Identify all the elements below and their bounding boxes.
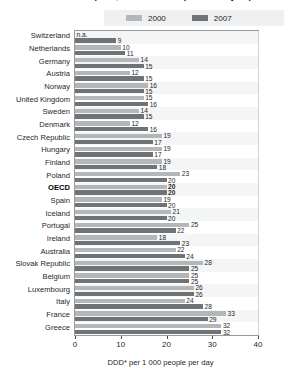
bar-fill: [75, 228, 176, 232]
bar-fill: [75, 190, 167, 194]
category-label-czech-republic: Czech Republic: [17, 133, 70, 142]
bar-2007-iceland: 20: [75, 216, 258, 220]
bar-2007-luxembourg: 26: [75, 292, 258, 296]
value-axis: 010203040: [74, 336, 259, 354]
axis-tick: [167, 336, 168, 339]
bar-2007-australia: 24: [75, 254, 258, 258]
bar-2000-sweden: 14: [75, 109, 258, 113]
bar-2000-switzerland: n.a.: [75, 33, 258, 37]
bar-fill: [75, 114, 144, 118]
bar-2007-norway: 15: [75, 89, 258, 93]
bar-fill: [75, 324, 221, 328]
bar-value-2000: 23: [182, 170, 189, 177]
bar-2007-czech-republic: 17: [75, 140, 258, 144]
bar-value-2000: 12: [131, 69, 138, 76]
bar-fill: [75, 76, 144, 80]
axis-tick: [212, 336, 213, 339]
chart-title: Antibacterials consumption, 2000 and 200…: [0, 0, 285, 3]
bar-fill: [75, 178, 167, 182]
category-label-ireland: Ireland: [47, 234, 70, 243]
bar-value-2000: 12: [131, 120, 138, 127]
category-label-belgium: Belgium: [43, 272, 70, 281]
plot-area: n.a.910111415121516151516141512161917191…: [74, 30, 259, 336]
bar-fill: [75, 210, 171, 214]
bar-fill: [75, 96, 144, 100]
bar-fill: [75, 45, 121, 49]
bar-fill: [75, 152, 153, 156]
bar-fill: [75, 147, 162, 151]
bar-2000-united-kingdom: 15: [75, 96, 258, 100]
bar-2000-italy: 24: [75, 299, 258, 303]
bar-fill: [75, 134, 162, 138]
legend-item-2007: 2007: [192, 14, 232, 23]
axis-tick-label-20: 20: [162, 340, 171, 349]
bar-2007-belgium: 25: [75, 279, 258, 283]
bar-fill: [75, 286, 194, 290]
category-label-luxembourg: Luxembourg: [28, 285, 70, 294]
category-label-switzerland: Switzerland: [31, 31, 70, 40]
bar-fill: [75, 172, 180, 176]
bar-fill: [75, 216, 167, 220]
bar-fill: [75, 223, 189, 227]
category-label-italy: Italy: [56, 297, 70, 306]
bar-fill: [75, 241, 180, 245]
bar-2000-portugal: 25: [75, 223, 258, 227]
bar-2000-norway: 16: [75, 83, 258, 87]
bar-2000-hungary: 19: [75, 147, 258, 151]
axis-tick: [258, 336, 259, 339]
bar-2007-greece: 32: [75, 330, 258, 334]
category-label-iceland: Iceland: [46, 209, 71, 218]
bar-value-2000: 22: [177, 246, 184, 253]
bar-value-2000: 33: [227, 310, 234, 317]
axis-tick-label-0: 0: [73, 340, 77, 349]
category-label-portugal: Portugal: [42, 221, 70, 230]
axis-tick-label-10: 10: [116, 340, 125, 349]
bar-fill: [75, 58, 139, 62]
bar-fill: [75, 197, 162, 201]
bar-fill: [75, 299, 185, 303]
bar-fill: [75, 266, 189, 270]
bar-2007-sweden: 15: [75, 114, 258, 118]
bar-fill: [75, 185, 167, 189]
bar-fill: [75, 109, 139, 113]
category-label-hungary: Hungary: [41, 145, 70, 154]
bar-2000-oecd: 20: [75, 185, 258, 189]
category-label-united-kingdom: United Kingdom: [16, 95, 70, 104]
bar-fill: [75, 38, 116, 42]
bar-2000-france: 33: [75, 311, 258, 315]
legend-swatch-2000: [126, 15, 142, 21]
bar-2000-austria: 12: [75, 71, 258, 75]
axis-tick-label-30: 30: [208, 340, 217, 349]
bar-2007-ireland: 23: [75, 241, 258, 245]
bar-fill: [75, 311, 226, 315]
category-label-oecd: OECD: [48, 183, 70, 192]
bar-2000-luxembourg: 26: [75, 286, 258, 290]
bar-value-2000: n.a.: [77, 31, 88, 38]
axis-tick: [121, 336, 122, 339]
bar-2000-belgium: 25: [75, 273, 258, 277]
bar-2000-iceland: 21: [75, 210, 258, 214]
legend-swatch-2007: [192, 15, 208, 21]
bar-2000-denmark: 12: [75, 121, 258, 125]
category-label-denmark: Denmark: [39, 120, 70, 129]
bar-fill: [75, 317, 208, 321]
bar-2007-united-kingdom: 16: [75, 102, 258, 106]
bar-2007-switzerland: 9: [75, 38, 258, 42]
bar-2000-spain: 19: [75, 197, 258, 201]
bar-2007-hungary: 17: [75, 152, 258, 156]
axis-tick-label-40: 40: [254, 340, 263, 349]
bar-fill: [75, 279, 189, 283]
bar-2000-greece: 32: [75, 324, 258, 328]
bar-2007-spain: 20: [75, 203, 258, 207]
bar-value-2000: 19: [163, 132, 170, 139]
axis-caption: DDD* per 1 000 people per day: [0, 358, 285, 367]
bar-2007-austria: 15: [75, 76, 258, 80]
bar-2000-germany: 14: [75, 58, 258, 62]
bar-2007-italy: 28: [75, 304, 258, 308]
bar-value-2000: 18: [159, 234, 166, 241]
bar-fill: [75, 102, 148, 106]
bar-fill: [75, 261, 203, 265]
bar-fill: [75, 165, 157, 169]
bar-2000-czech-republic: 19: [75, 134, 258, 138]
bar-fill: [75, 235, 157, 239]
